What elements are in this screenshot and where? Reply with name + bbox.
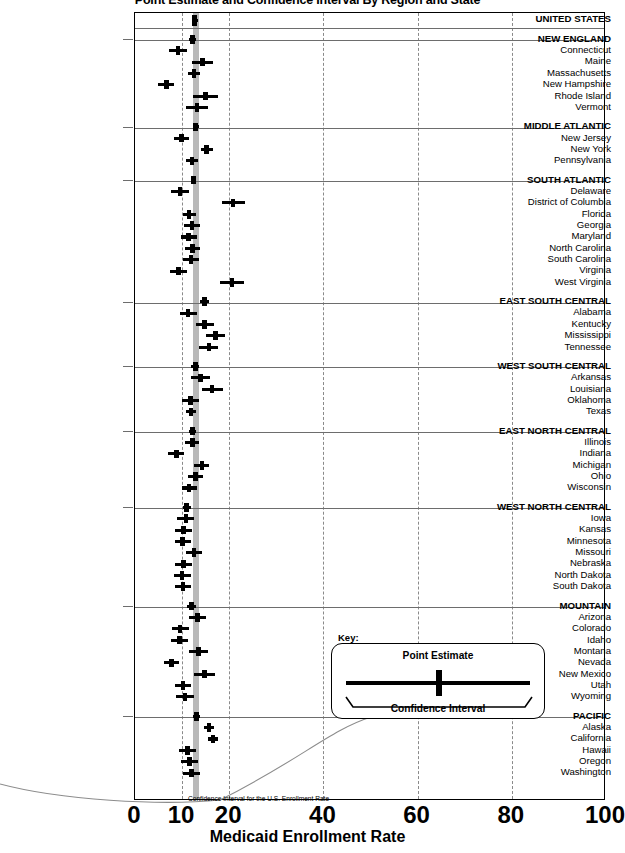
row-label-mountain: MOUNTAIN [481,601,615,611]
point-estimate-marker [186,233,191,242]
row-label-georgia: Georgia [481,220,615,230]
x-tick-label-10: 10 [168,801,195,829]
point-estimate-marker [190,244,195,253]
point-estimate-marker [190,438,195,447]
point-estimate-marker [231,199,236,208]
point-estimate-marker [183,693,188,702]
chart-title: Point Estimate and Confidence Interval B… [0,0,615,7]
row-label-tennessee: Tennessee [481,342,615,352]
row-label-east-south-central: EAST SOUTH CENTRAL [481,296,615,306]
point-estimate-marker [202,297,207,306]
point-estimate-marker [181,681,186,690]
point-estimate-marker [178,625,183,634]
point-estimate-marker [181,526,186,535]
point-estimate-marker [202,670,207,679]
point-estimate-marker [193,472,198,481]
row-label-mississippi: Mississippi [481,330,615,340]
row-label-virginia: Virginia [481,265,615,275]
point-estimate-marker [176,46,181,55]
point-estimate-marker [177,636,182,645]
point-estimate-marker [191,176,196,185]
point-estimate-marker [190,35,195,44]
point-estimate-marker [190,427,195,436]
point-estimate-marker [192,548,197,557]
x-tick-label-0: 0 [127,801,140,829]
row-label-arkansas: Arkansas [481,372,615,382]
point-estimate-marker [181,560,186,569]
point-estimate-marker [178,187,183,196]
point-estimate-marker [174,450,179,459]
gridline-40 [323,13,324,799]
row-label-oregon: Oregon [481,756,615,766]
x-tick-label-40: 40 [309,801,336,829]
point-estimate-marker [213,331,218,340]
point-estimate-marker [196,647,201,656]
row-label-ohio: Ohio [481,471,615,481]
row-label-hawaii: Hawaii [481,745,615,755]
point-estimate-marker [195,613,200,622]
point-estimate-marker [189,769,194,778]
point-estimate-marker [184,503,189,512]
region-tick [123,127,133,128]
point-estimate-marker [207,723,212,732]
point-estimate-marker [186,309,191,318]
gridline-20 [229,13,230,799]
row-label-new-york: New York [481,144,615,154]
row-label-vermont: Vermont [481,102,615,112]
region-tick [123,431,133,432]
region-tick [123,507,133,508]
region-tick [123,366,133,367]
row-label-pennsylvania: Pennsylvania [481,155,615,165]
row-label-south-atlantic: SOUTH ATLANTIC [481,175,615,185]
row-label-maryland: Maryland [481,231,615,241]
point-estimate-marker [192,15,197,26]
point-estimate-marker [187,210,192,219]
row-label-massachusetts: Massachusetts [481,68,615,78]
region-tick [123,39,133,40]
row-label-washington: Washington [481,767,615,777]
row-label-louisiana: Louisiana [481,384,615,394]
point-estimate-marker [198,374,203,383]
key-box: Point Estimate Confidence Interval [331,643,545,719]
row-label-north-carolina: North Carolina [481,243,615,253]
row-label-indiana: Indiana [481,448,615,458]
point-estimate-marker [169,659,174,668]
row-label-new-jersey: New Jersey [481,133,615,143]
row-label-kentucky: Kentucky [481,319,615,329]
region-tick [123,606,133,607]
row-label-minnesota: Minnesota [481,536,615,546]
point-estimate-marker [190,157,195,166]
point-estimate-marker [230,278,235,287]
row-label-connecticut: Connecticut [481,45,615,55]
row-label-new-england: NEW ENGLAND [481,34,615,44]
row-label-oklahoma: Oklahoma [481,395,615,405]
row-label-nebraska: Nebraska [481,558,615,568]
row-label-delaware: Delaware [481,186,615,196]
row-label-wisconsin: Wisconsin [481,482,615,492]
point-estimate-marker [190,221,195,230]
row-label-michigan: Michigan [481,460,615,470]
x-tick-label-60: 60 [403,801,430,829]
key-point-estimate-label: Point Estimate [332,650,544,661]
row-label-california: California [481,733,615,743]
key-confidence-interval-label: Confidence Interval [332,703,544,714]
region-tick [123,180,133,181]
x-axis-title: Medicaid Enrollment Rate [0,828,615,846]
point-estimate-marker [200,58,205,67]
us-ci-annotation: Confidence Interval for the U.S. Enrollm… [188,795,329,802]
key-point-estimate-tick [436,670,442,696]
row-label-north-dakota: North Dakota [481,570,615,580]
point-estimate-marker [193,362,198,371]
key-title: Key: [338,632,359,643]
row-label-arizona: Arizona [481,612,615,622]
row-label-texas: Texas [481,406,615,416]
point-estimate-marker [210,385,215,394]
row-label-iowa: Iowa [481,513,615,523]
region-tick [123,716,133,717]
x-tick-label-100: 100 [585,801,625,829]
point-estimate-marker [179,134,184,143]
x-tick-label-80: 80 [497,801,524,829]
row-label-rhode-island: Rhode Island [481,91,615,101]
point-estimate-marker [211,735,216,744]
